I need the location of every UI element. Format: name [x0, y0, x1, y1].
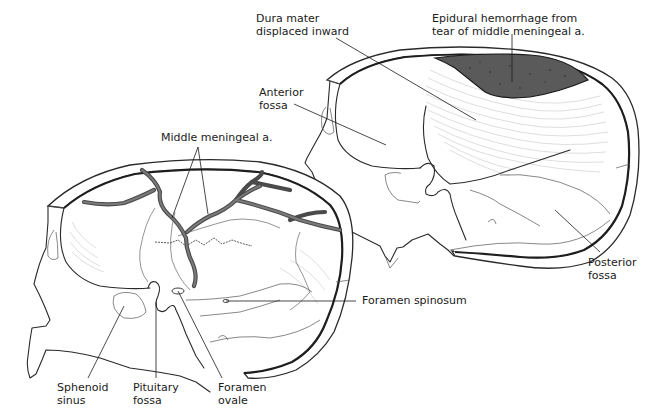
label-dura-mater: Dura mater displaced inward — [256, 13, 349, 38]
left-orbit — [48, 230, 58, 260]
label-foramen-ovale: Foramen ovale — [218, 382, 266, 407]
label-anterior-fossa: Anterior fossa — [259, 87, 303, 112]
right-skull — [305, 47, 639, 268]
label-middle-meningeal: Middle meningeal a. — [161, 132, 273, 145]
anatomy-illustration — [0, 0, 651, 417]
label-epidural-hemorrhage: Epidural hemorrhage from tear of middle … — [432, 13, 585, 38]
leader-sphenoid-sinus — [88, 306, 124, 378]
left-sphenoid-sinus — [113, 292, 146, 318]
label-pituitary-fossa: Pituitary fossa — [133, 382, 179, 407]
label-sphenoid-sinus: Sphenoid sinus — [57, 382, 108, 407]
left-skull — [27, 160, 352, 392]
label-foramen-spinosum: Foramen spinosum — [362, 295, 467, 308]
label-posterior-fossa: Posterior fossa — [588, 257, 637, 282]
